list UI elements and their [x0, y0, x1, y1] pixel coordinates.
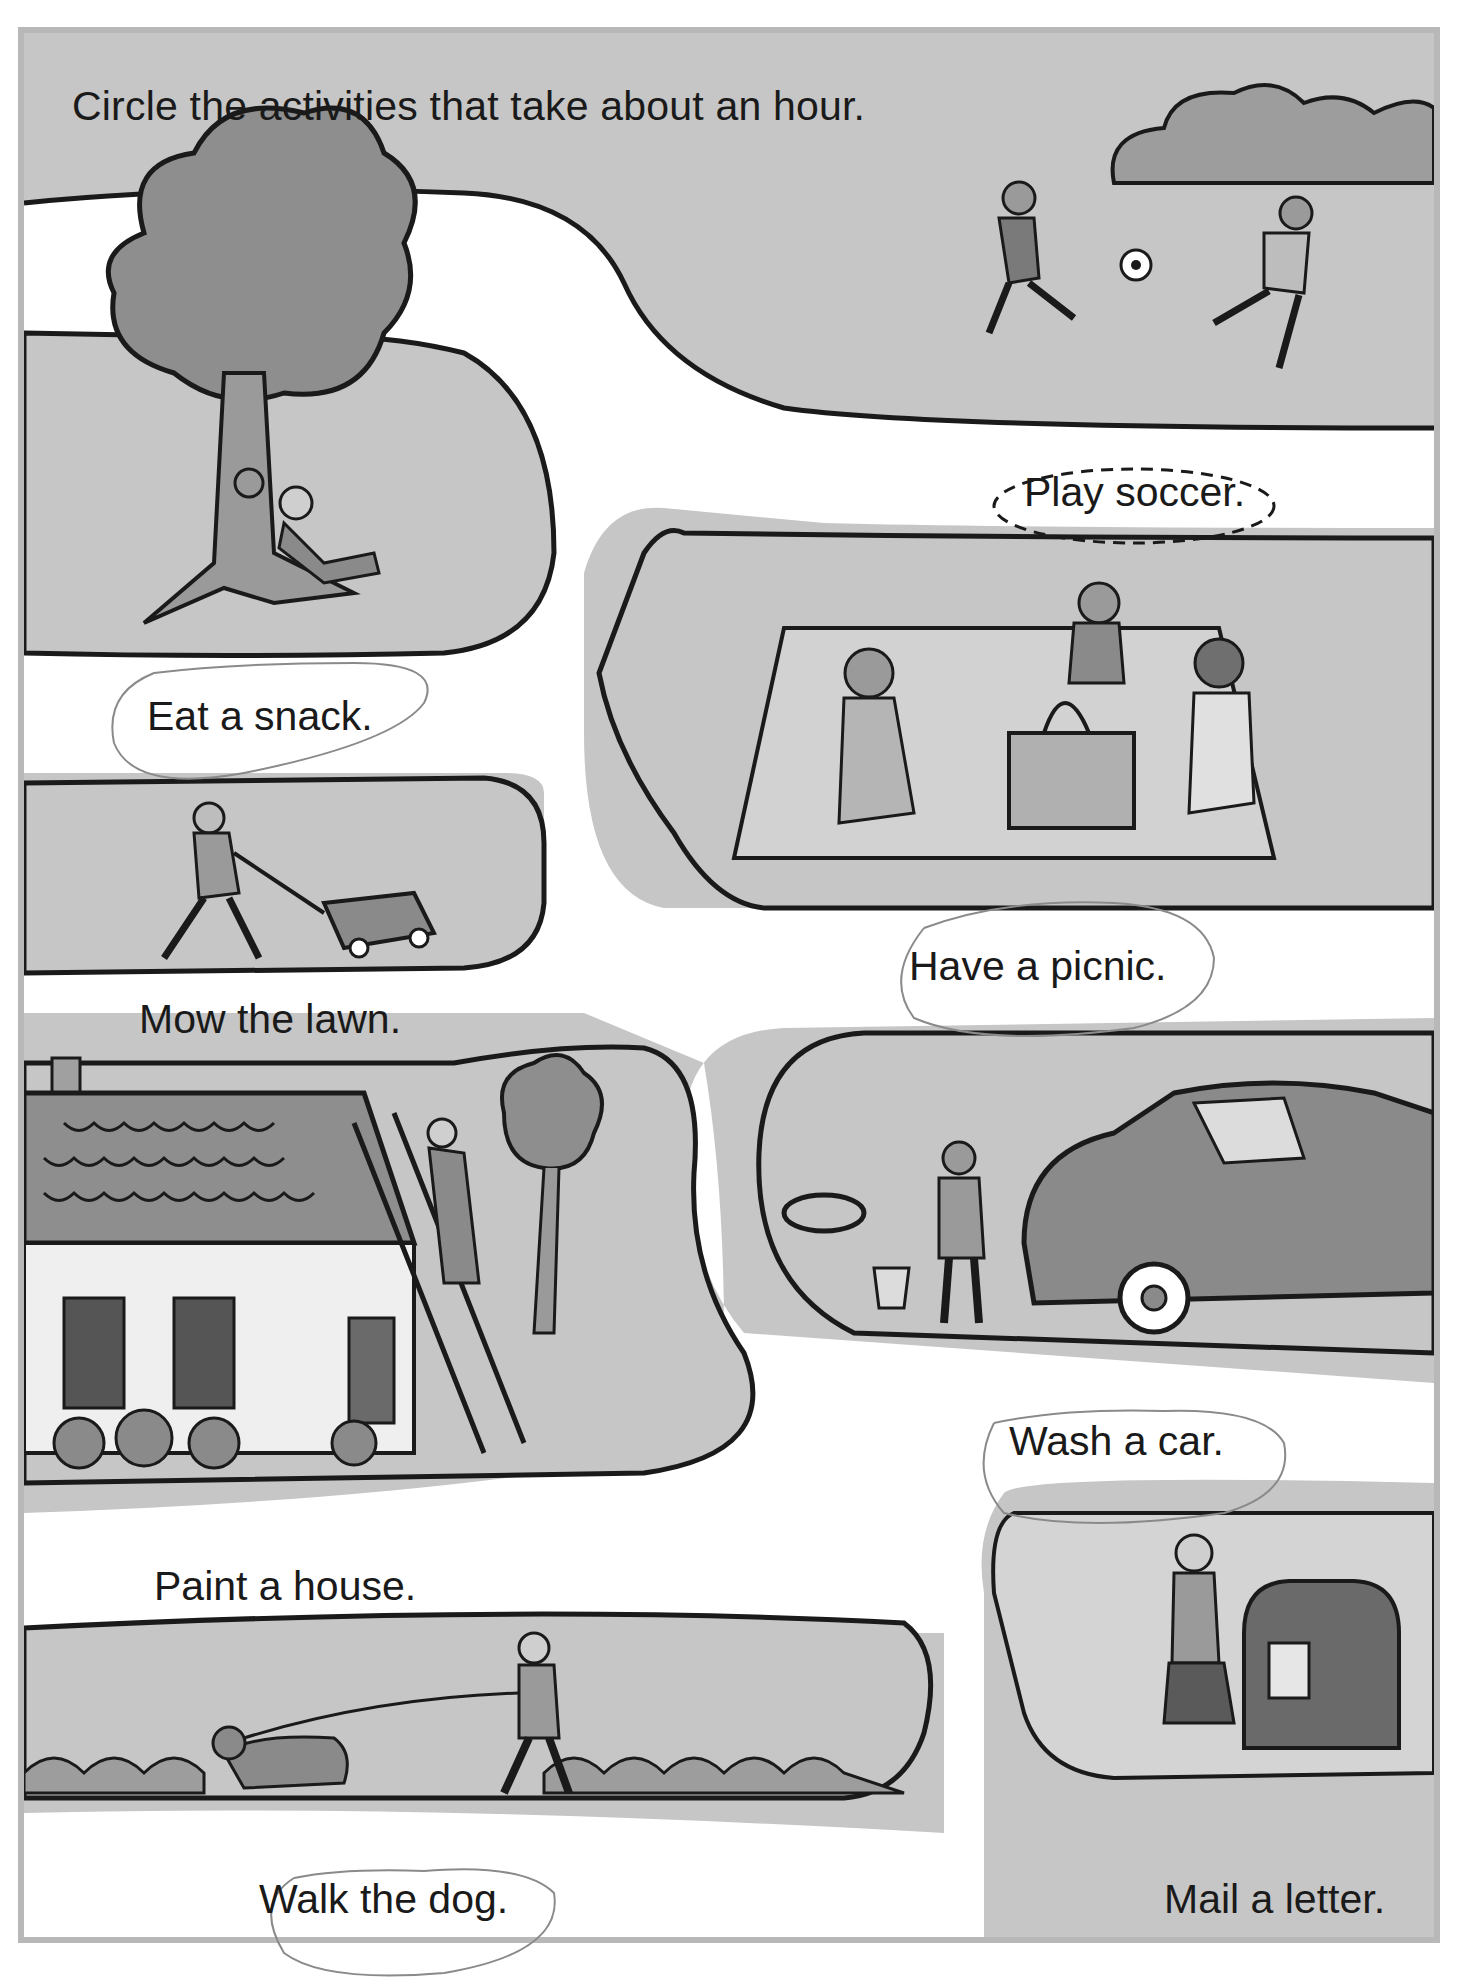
activity-label-paint-house[interactable]: Paint a house. [154, 1563, 416, 1610]
activity-label-mail-letter[interactable]: Mail a letter. [1164, 1876, 1385, 1923]
activity-label-eat-snack[interactable]: Eat a snack. [147, 693, 373, 740]
activity-label-have-picnic[interactable]: Have a picnic. [909, 943, 1167, 990]
worksheet-instruction: Circle the activities that take about an… [72, 83, 865, 130]
worksheet-page: Circle the activities that take about an… [18, 27, 1440, 1943]
activity-label-wash-car[interactable]: Wash a car. [1009, 1418, 1224, 1465]
park-scene-illustration [24, 33, 1434, 1937]
activity-label-walk-dog[interactable]: Walk the dog. [259, 1876, 508, 1923]
activity-label-play-soccer[interactable]: Play soccer. [1024, 469, 1245, 516]
activity-label-mow-lawn[interactable]: Mow the lawn. [139, 996, 401, 1043]
